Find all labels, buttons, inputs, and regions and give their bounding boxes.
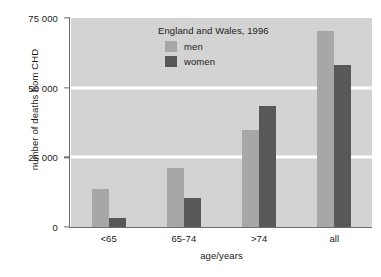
chart-legend: England and Wales, 1996 men women <box>158 25 269 71</box>
bar-men->74 <box>242 130 259 227</box>
legend-item-men: men <box>165 41 269 52</box>
x-axis-tick-label: all <box>329 233 339 244</box>
bar-men-65-74 <box>167 168 184 227</box>
bar-women-65-74 <box>184 198 201 227</box>
x-axis-line <box>69 227 372 228</box>
y-axis-tick-labels: 025 00050 00075 000 <box>0 0 66 277</box>
x-axis-title: age/years <box>71 250 372 261</box>
x-axis-tick-label: <65 <box>100 233 116 244</box>
legend-label-men: men <box>184 41 203 52</box>
legend-swatch-men-icon <box>165 41 177 52</box>
y-axis-tick-mark <box>64 87 70 88</box>
legend-swatch-women-icon <box>165 56 177 67</box>
legend-label-women: women <box>184 56 215 67</box>
y-axis-tick-mark <box>64 17 70 18</box>
bar-women-all <box>334 65 351 227</box>
x-axis-tick-labels: <6565-74>74all <box>71 233 372 249</box>
y-axis-tick-label: 25 000 <box>28 152 58 163</box>
bar-women-<65 <box>109 218 126 227</box>
legend-title: England and Wales, 1996 <box>158 25 269 36</box>
x-axis-tick-label: 65-74 <box>171 233 196 244</box>
bar-men-<65 <box>92 189 109 227</box>
y-axis-tick-label: 75 000 <box>28 13 58 24</box>
bar-chart-figure: number of deaths from CHD 025 00050 0007… <box>0 0 381 277</box>
x-axis-tick-label: >74 <box>251 233 267 244</box>
y-axis-tick-label: 50 000 <box>28 82 58 93</box>
y-axis-tick-label: 0 <box>53 222 58 233</box>
y-axis-tick-mark <box>64 226 70 227</box>
y-axis-tick-mark <box>64 157 70 158</box>
bar-men-all <box>317 31 334 227</box>
bar-women->74 <box>259 106 276 227</box>
legend-item-women: women <box>165 56 269 67</box>
